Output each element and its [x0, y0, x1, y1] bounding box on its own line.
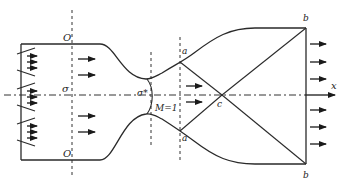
characteristic-c-to-b-bottom: [222, 95, 306, 164]
label-o-bottom: O: [63, 148, 71, 159]
label-x-axis: x: [331, 80, 337, 91]
label-a-top: a: [182, 46, 187, 56]
characteristic-a-bottom-to-c: [180, 95, 222, 131]
injector-icon: [17, 83, 37, 111]
label-mach-one: M=1: [154, 103, 177, 113]
injector-icon: [17, 48, 37, 76]
characteristic-c-to-b-top: [222, 28, 306, 95]
label-sigma: σ: [62, 83, 70, 94]
injector-icon: [17, 118, 37, 146]
characteristic-a-top-to-c: [180, 62, 222, 95]
laval-nozzle-diagram: O O σ σ* M=1 a a c b b x: [0, 0, 343, 185]
label-sigma-star: σ*: [137, 88, 148, 98]
label-c: c: [217, 99, 222, 109]
label-a-bottom: a: [182, 133, 187, 143]
label-b-bottom: b: [303, 170, 309, 180]
label-b-top: b: [303, 13, 309, 23]
label-o-top: O: [63, 32, 71, 43]
